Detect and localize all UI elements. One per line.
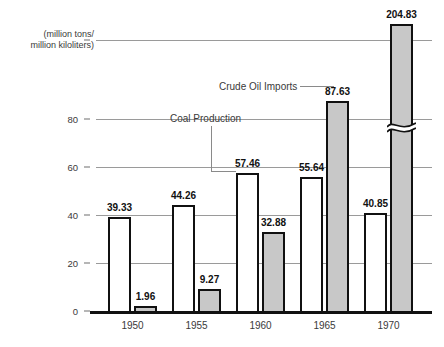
bar-oil-1970	[390, 24, 413, 311]
bar-value-oil-1950: 1.96	[136, 291, 155, 302]
y-tick-label-40: 40	[48, 210, 78, 221]
bar-value-coal-1955: 44.26	[171, 190, 196, 201]
leader-line-coal-production-vertical	[211, 126, 212, 171]
annotation-crude-oil-imports: Crude Oil Imports	[219, 81, 297, 92]
bar-oil-1965	[326, 101, 349, 311]
x-tick-label-1960: 1960	[249, 320, 271, 331]
bar-coal-1950	[108, 217, 131, 311]
bar-value-oil-1955: 9.27	[200, 274, 219, 285]
y-tick-label-80: 80	[48, 114, 78, 125]
gridline-80	[96, 119, 432, 120]
caption-rule	[96, 40, 432, 41]
bar-value-coal-1970: 40.85	[363, 198, 388, 209]
y-tick-label-60: 60	[48, 162, 78, 173]
y-tick-label-20: 20	[48, 258, 78, 269]
caption-rule-tick	[84, 40, 90, 41]
y-tick-mark-80	[84, 119, 90, 120]
x-axis-baseline	[90, 311, 432, 314]
leader-line-crude-oil-imports	[300, 86, 334, 87]
y-tick-mark-60	[84, 167, 90, 168]
bar-value-oil-1960: 32.88	[261, 217, 286, 228]
bar-oil-1955	[198, 289, 221, 311]
bar-coal-1960	[236, 173, 259, 311]
bar-coal-1970	[364, 213, 387, 311]
x-tick-label-1965: 1965	[313, 320, 335, 331]
bar-coal-1955	[172, 205, 195, 311]
gridline-60	[96, 167, 432, 168]
y-tick-mark-20	[84, 263, 90, 264]
bar-oil-1960	[262, 232, 285, 311]
y-axis-unit-caption: (million tons/ million kiloliters)	[6, 29, 94, 51]
y-tick-label-0: 0	[48, 306, 78, 317]
x-tick-label-1970: 1970	[377, 320, 399, 331]
y-tick-mark-40	[84, 215, 90, 216]
bar-chart: (million tons/ million kiloliters) 02040…	[0, 0, 444, 347]
leader-line-coal-production-horizontal	[211, 171, 236, 172]
bar-value-coal-1950: 39.33	[107, 202, 132, 213]
bar-value-coal-1960: 57.46	[235, 158, 260, 169]
bar-value-coal-1965: 55.64	[299, 162, 324, 173]
bar-coal-1965	[300, 177, 323, 311]
annotation-coal-production: Coal Production	[170, 113, 241, 124]
x-tick-label-1955: 1955	[185, 320, 207, 331]
bar-value-oil-1970: 204.83	[386, 9, 417, 20]
bar-value-oil-1965: 87.63	[325, 86, 350, 97]
x-tick-label-1950: 1950	[121, 320, 143, 331]
